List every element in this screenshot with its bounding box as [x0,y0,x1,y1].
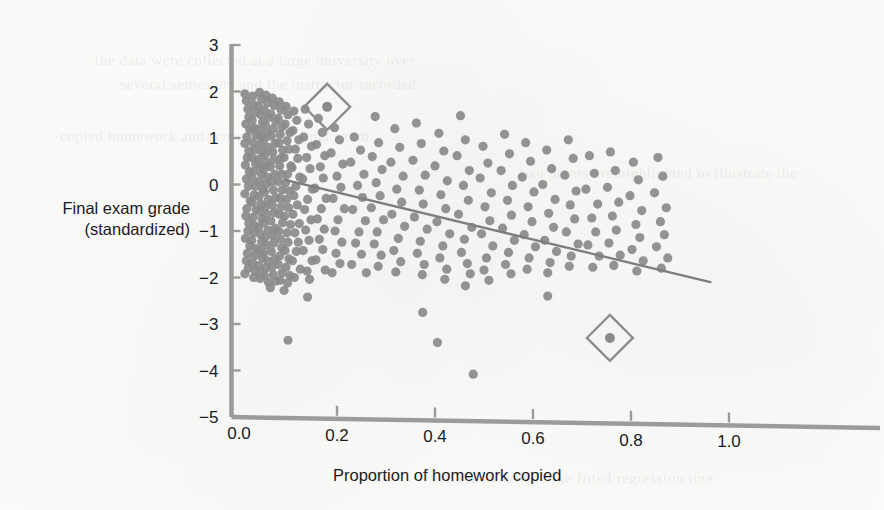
data-point [274,226,283,235]
data-point [524,253,533,262]
data-point [524,202,533,211]
data-point [302,153,311,162]
data-point [639,256,648,265]
data-point [340,204,349,213]
data-point [350,132,359,141]
data-point [521,138,530,147]
y-axis-tick-label: 0 [209,176,218,195]
data-point [319,173,328,182]
data-point [418,308,427,317]
data-point [504,248,513,257]
data-point [452,151,461,160]
data-point [372,178,381,187]
data-point [593,199,602,208]
data-point [507,211,516,220]
data-point [454,210,463,219]
data-point [423,225,432,234]
data-point [518,172,527,181]
data-point [247,236,256,245]
data-point [460,235,469,244]
data-point [281,102,290,111]
data-point [572,186,581,195]
y-axis-tick-label: 1 [209,129,218,148]
data-point [282,136,291,145]
highlighted-data-point [605,333,615,343]
data-point [487,188,496,197]
data-point [357,250,366,259]
data-point [637,206,646,215]
data-point [418,270,427,279]
data-point [658,172,667,181]
data-point [662,203,671,212]
data-point [392,185,401,194]
data-point [612,225,621,234]
data-point [438,241,447,250]
data-point [587,213,596,222]
data-point [526,157,535,166]
data-point [354,227,363,236]
data-point [413,249,422,258]
data-point [417,139,426,148]
data-point [635,233,644,242]
data-point [292,116,301,125]
data-point [529,187,538,196]
x-axis-tick-label: 0.0 [227,424,251,443]
data-point [660,230,669,239]
data-point [280,119,289,128]
data-point [395,143,404,152]
data-point [564,135,573,144]
data-point [389,246,398,255]
data-point [569,154,578,163]
data-point [631,220,640,229]
data-point [376,191,385,200]
data-point [627,245,636,254]
data-point [445,229,454,238]
data-point [415,185,424,194]
data-point [590,169,599,178]
data-point [483,159,492,168]
data-point [280,246,289,255]
data-point [351,238,360,247]
data-point [478,142,487,151]
data-point [464,196,473,205]
data-point [547,164,556,173]
data-point [331,249,340,258]
data-point [374,138,383,147]
data-point [439,146,448,155]
data-point [614,198,623,207]
data-point [466,269,475,278]
data-point [459,181,468,190]
y-axis-tick-label: −2 [199,269,218,288]
x-axis-label: Proportion of homework copied [333,466,561,485]
data-point [480,202,489,211]
data-point [280,212,289,221]
data-point [332,172,341,181]
data-point [616,251,625,260]
data-point [359,170,368,179]
x-axis-tick-label: 1.0 [717,432,741,451]
data-point [583,240,592,249]
data-point [585,151,594,160]
data-point [543,292,552,301]
data-point [436,190,445,199]
data-point [408,156,417,165]
data-point [305,275,314,284]
data-point [421,171,430,180]
data-point [266,283,275,292]
data-point [303,292,312,301]
data-point [523,265,532,274]
data-point [416,237,425,246]
data-point [377,165,386,174]
data-point [289,106,298,115]
data-point [527,217,536,226]
data-point [386,158,395,167]
data-point [301,225,310,234]
y-axis-tick-label: −1 [199,222,218,241]
data-point [367,203,376,212]
data-point [333,215,342,224]
data-point [304,236,313,245]
data-point [294,238,303,247]
data-point [336,183,345,192]
data-point [313,214,322,223]
x-axis-tick-label: 0.4 [423,427,447,446]
